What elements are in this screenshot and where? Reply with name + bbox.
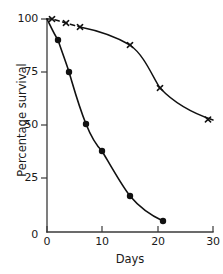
y-tick-label-100: 100	[8, 12, 38, 25]
data-point-marker	[99, 148, 105, 154]
data-point-marker	[157, 86, 162, 91]
cross-marker-series-line	[47, 19, 213, 120]
data-point-marker	[83, 121, 89, 127]
data-point-marker	[55, 37, 61, 43]
cross-markers	[49, 17, 210, 122]
x-tick-label-30: 30	[203, 235, 223, 248]
axis-lines	[47, 19, 213, 232]
y-tick-label-0: 0	[8, 228, 38, 241]
y-axis-title: Percentage survival	[15, 50, 29, 190]
data-point-marker	[160, 218, 166, 224]
survival-chart-figure: 100 75 50 25 0 0 10 20 30 Percentage sur…	[0, 0, 223, 274]
data-point-marker	[66, 69, 72, 75]
x-tick-label-0: 0	[37, 235, 57, 248]
filled-circle-markers	[55, 37, 166, 224]
y-axis-ticks	[41, 19, 47, 178]
filled-circle-series-line	[47, 19, 163, 221]
x-tick-label-20: 20	[148, 235, 168, 248]
x-tick-label-10: 10	[92, 235, 112, 248]
x-axis-ticks	[47, 226, 213, 232]
data-point-marker	[127, 43, 132, 48]
x-axis-title: Days	[47, 252, 213, 266]
data-point-marker	[127, 193, 133, 199]
cross-series-solid-segment	[80, 27, 213, 120]
